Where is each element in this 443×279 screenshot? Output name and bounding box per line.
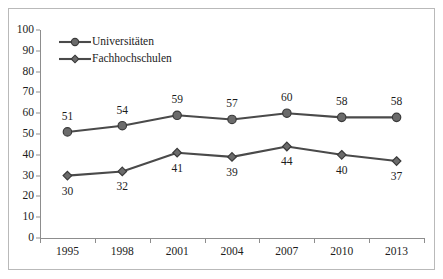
- line-chart: 1009080706050403020100 19951998200120042…: [0, 0, 443, 279]
- data-point-label: 39: [226, 167, 238, 179]
- data-point-label: 44: [281, 157, 293, 169]
- data-point-label: 59: [171, 95, 183, 107]
- data-point-circle-marker: [173, 111, 181, 119]
- data-point-label: 57: [226, 99, 238, 111]
- data-point-diamond-marker: [228, 153, 237, 162]
- data-point-diamond-marker: [337, 151, 346, 160]
- data-point-diamond-marker: [283, 142, 292, 151]
- legend-item-1[interactable]: Universitäten: [58, 33, 172, 50]
- data-point-label: 41: [171, 163, 183, 175]
- data-point-label: 37: [391, 171, 403, 183]
- data-point-label: 60: [281, 92, 293, 104]
- data-point-circle-marker: [118, 121, 126, 129]
- data-point-circle-marker: [283, 109, 291, 117]
- data-point-diamond-marker: [63, 171, 72, 180]
- data-point-circle-marker: [392, 113, 400, 121]
- legend-diamond-marker-icon: [58, 53, 92, 65]
- data-point-circle-marker: [338, 113, 346, 121]
- data-point-diamond-marker: [173, 148, 182, 157]
- data-point-diamond-marker: [392, 157, 401, 166]
- legend-item-label: Universitäten: [92, 36, 154, 48]
- data-point-label: 40: [336, 165, 348, 177]
- data-point-label: 58: [336, 97, 348, 109]
- data-point-label: 32: [117, 182, 129, 194]
- data-point-label: 54: [117, 105, 129, 117]
- chart-legend: UniversitätenFachhochschulen: [58, 33, 172, 67]
- data-point-label: 30: [62, 186, 74, 198]
- data-point-circle-marker: [228, 115, 236, 123]
- data-point-label: 58: [391, 97, 403, 109]
- legend-circle-marker-icon: [58, 36, 92, 48]
- series-1: [63, 109, 401, 136]
- legend-item-label: Fachhochschulen: [92, 53, 172, 65]
- data-point-circle-marker: [63, 128, 71, 136]
- legend-item-2[interactable]: Fachhochschulen: [58, 50, 172, 67]
- data-point-label: 51: [62, 111, 74, 123]
- data-point-diamond-marker: [118, 167, 127, 176]
